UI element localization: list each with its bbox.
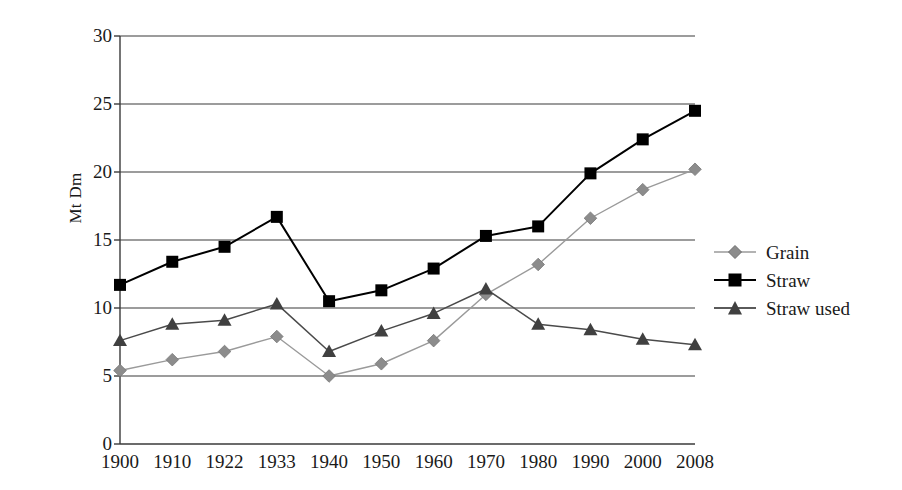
series-markers-grain [271,330,284,343]
chart-legend: Grain Straw Straw used [712,238,892,322]
series-markers-straw-used [374,324,388,336]
legend-item-straw-used: Straw used [712,294,892,322]
series-line-grain [120,169,695,376]
series-markers-grain [375,357,388,370]
legend-marker-triangle-icon [712,298,758,318]
legend-item-grain: Grain [712,238,892,266]
series-markers-straw [166,256,178,268]
series-markers-grain [218,345,231,358]
legend-marker-square-icon [712,270,758,290]
series-markers-straw [323,295,335,307]
series-markers-straw-used [270,297,284,309]
series-markers-grain [166,353,179,366]
series-markers-grain [114,364,127,377]
series-markers-straw-used [531,317,545,329]
series-markers-straw-used [479,282,493,294]
series-markers-straw [375,284,387,296]
series-markers-straw [114,279,126,291]
series-markers-straw [584,167,596,179]
series-markers-grain [323,370,336,383]
legend-label-grain: Grain [758,243,809,262]
legend-label-straw-used: Straw used [758,299,850,318]
series-line-straw [120,111,695,301]
series-markers-straw [689,105,701,117]
legend-marker-diamond-icon [712,242,758,262]
series-markers-straw [480,230,492,242]
line-chart: Mt Dm 302520151050 190019101922193319401… [0,0,902,490]
series-line-straw-used [120,289,695,352]
series-markers-straw [219,241,231,253]
series-markers-grain [689,163,702,176]
series-markers-straw [532,220,544,232]
series-markers-straw [637,133,649,145]
series-markers-straw [428,263,440,275]
legend-item-straw: Straw [712,266,892,294]
legend-label-straw: Straw [758,271,810,290]
series-markers-straw [271,211,283,223]
series-markers-grain [636,183,649,196]
